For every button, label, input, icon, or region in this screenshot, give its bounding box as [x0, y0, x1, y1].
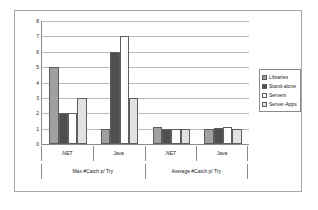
y-axis-tick-label: 6	[36, 49, 39, 54]
group-tick	[145, 164, 146, 179]
bar	[232, 129, 241, 144]
plot-area: 012345678	[41, 21, 249, 145]
category-axis: .NETJava.NETJava Max #Catch p/ TryAverag…	[41, 145, 249, 183]
y-axis-tick-label: 8	[36, 19, 39, 24]
group-tick	[41, 164, 42, 179]
category-row-metric: Max #Catch p/ TryAverage #Catch p/ Try	[41, 164, 249, 179]
category-label: Java	[93, 146, 145, 161]
bar	[101, 129, 110, 144]
y-axis-tick-label: 7	[36, 34, 39, 39]
bar	[68, 113, 77, 144]
legend-label: Stand-alone	[269, 84, 296, 89]
category-tick	[145, 146, 146, 161]
y-axis-tick-label: 0	[36, 142, 39, 147]
bar	[110, 52, 119, 144]
bar	[129, 98, 138, 144]
legend-item[interactable]: Stand-alone	[262, 82, 298, 90]
legend-swatch-icon	[262, 84, 267, 89]
bar	[171, 129, 180, 144]
legend-item[interactable]: Server-Apps	[262, 100, 298, 108]
group-label: Max #Catch p/ Try	[41, 164, 145, 179]
bar	[162, 129, 171, 144]
legend-swatch-icon	[262, 75, 267, 80]
bar	[223, 127, 232, 144]
legend-item[interactable]: Libraries	[262, 73, 298, 81]
legend-swatch-icon	[262, 102, 267, 107]
y-axis-tick-label: 2	[36, 111, 39, 116]
group-label: Average #Catch p/ Try	[145, 164, 249, 179]
chart-frame: 012345678 .NETJava.NETJava Max #Catch p/…	[14, 10, 302, 192]
category-row-platform: .NETJava.NETJava	[41, 146, 249, 161]
bars-layer	[42, 21, 249, 144]
legend-label: Server-Apps	[269, 102, 297, 107]
bar	[59, 113, 68, 144]
y-axis-tick-label: 1	[36, 126, 39, 131]
legend-item[interactable]: Servers	[262, 91, 298, 99]
category-label: .NET	[41, 146, 93, 161]
legend-swatch-icon	[262, 93, 267, 98]
bar	[120, 36, 129, 144]
bar	[214, 128, 223, 144]
chart-legend: LibrariesStand-aloneServersServer-Apps	[259, 69, 301, 112]
y-axis-tick-label: 5	[36, 65, 39, 70]
category-tick	[41, 146, 42, 161]
bar	[181, 129, 190, 144]
legend-label: Libraries	[269, 75, 288, 80]
category-tick	[93, 146, 94, 161]
y-axis-tick-label: 3	[36, 95, 39, 100]
category-tick	[196, 146, 197, 161]
y-axis-tick-label: 4	[36, 80, 39, 85]
category-label: Java	[196, 146, 248, 161]
legend-label: Servers	[269, 93, 286, 98]
group-tick	[247, 164, 248, 179]
bar	[204, 129, 213, 144]
bar	[49, 67, 58, 144]
bar	[153, 127, 162, 144]
category-tick	[247, 146, 248, 161]
category-label: .NET	[145, 146, 197, 161]
bar	[77, 98, 86, 144]
